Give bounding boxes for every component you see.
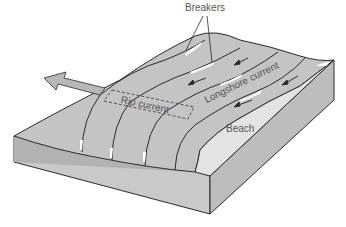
beach-label: Beach [226,124,254,134]
offshore-arrow-icon [44,72,105,95]
block-diagram-svg [0,0,346,227]
diagram: Breakers Rip current Longshore current B… [0,0,346,227]
breakers-label: Breakers [185,3,225,13]
